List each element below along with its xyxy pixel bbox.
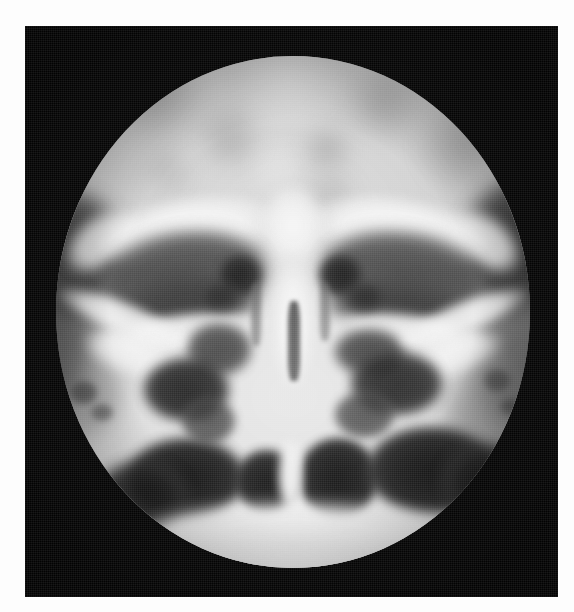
radiograph-film-plate bbox=[25, 26, 558, 597]
collimated-xray-field bbox=[56, 56, 530, 568]
turbinate-line-right bbox=[320, 283, 331, 340]
alveolar-lucency-right bbox=[335, 392, 393, 438]
vomer-dark-line bbox=[288, 301, 301, 381]
alveolar-lucency-left bbox=[182, 398, 235, 444]
vault-mottle-7 bbox=[134, 146, 203, 198]
page-canvas bbox=[0, 0, 574, 612]
speckle-right-1 bbox=[484, 369, 511, 392]
ethmoid-cell-right-2 bbox=[346, 283, 383, 312]
vault-mottle-5 bbox=[410, 100, 516, 192]
turbinate-line-left bbox=[251, 283, 262, 346]
glabella-midline-bone bbox=[261, 186, 325, 266]
speckle-left-2 bbox=[91, 404, 112, 421]
radiograph-image-layers bbox=[56, 56, 530, 568]
speckle-left-1 bbox=[70, 381, 97, 404]
ethmoid-cell-left-2 bbox=[203, 283, 240, 312]
